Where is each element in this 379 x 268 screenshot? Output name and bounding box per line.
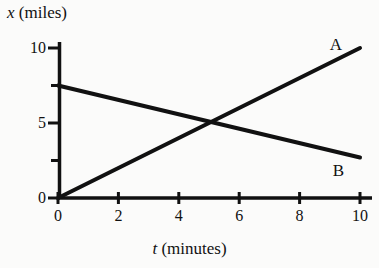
y-axis-label-variable: x [7,3,15,22]
x-tick-label: 8 [296,208,304,224]
x-axis-label: t (minutes) [0,240,379,257]
x-tick-label: 6 [235,208,243,224]
series-label-b: B [333,162,344,179]
series-line-b [58,86,360,158]
y-tick-label: 10 [10,40,46,56]
plot-area [0,0,379,268]
y-axis-label: x (miles) [7,4,67,21]
chart-figure: x (miles) t (minutes) 05100246810AB [0,0,379,268]
y-tick-label: 0 [10,190,46,206]
x-tick-label: 10 [352,208,368,224]
x-axis-label-unit: (minutes) [157,239,226,258]
x-tick-label: 4 [175,208,183,224]
series-label-a: A [330,36,342,53]
x-tick-label: 0 [54,208,62,224]
y-tick-label: 5 [10,115,46,131]
x-tick-label: 2 [114,208,122,224]
data-series [58,48,360,198]
y-axis-label-unit: (miles) [15,3,67,22]
